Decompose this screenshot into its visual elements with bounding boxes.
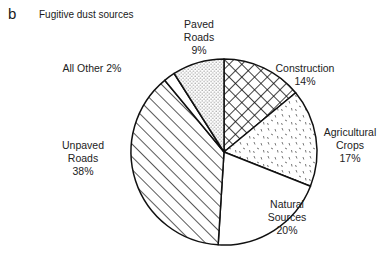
slice-label-line: All Other 2% [63, 62, 122, 74]
slice-label-line: 14% [294, 75, 315, 87]
slice-label-paved-roads: PavedRoads9% [184, 18, 214, 56]
slice-label-line: Roads [184, 31, 214, 43]
slice-label-line: Paved [184, 18, 214, 30]
slice-label-line: Agricultural [324, 126, 377, 138]
slice-label-line: Crops [336, 139, 364, 151]
slice-label-line: Natural [270, 198, 304, 210]
slice-label-line: 9% [191, 44, 206, 56]
slice-label-line: Sources [268, 211, 307, 223]
slice-label-agricultural-crops: AgriculturalCrops17% [324, 126, 377, 164]
slice-label-line: Roads [68, 152, 98, 164]
slice-label-line: 20% [276, 224, 297, 236]
pie-chart: Construction14%AgriculturalCrops17%Natur… [0, 0, 382, 261]
slice-label-unpaved-roads: UnpavedRoads38% [62, 139, 104, 177]
slice-label-line: Construction [276, 62, 335, 74]
slice-label-line: Unpaved [62, 139, 104, 151]
slice-label-all-other: All Other 2% [63, 62, 122, 74]
slice-label-line: 17% [339, 152, 360, 164]
slice-label-line: 38% [72, 165, 93, 177]
